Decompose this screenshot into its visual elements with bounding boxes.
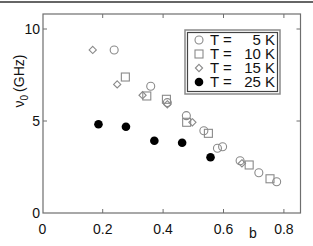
y-axis-label: ν0(GHz) [11, 55, 30, 108]
x-tick-label: 0.4 [153, 221, 173, 237]
y-axis-label-symbol: ν [11, 100, 27, 107]
y-axis-tick-labels: 0510 [24, 21, 40, 221]
diamond-marker [89, 46, 96, 53]
x-tick-label: 0.6 [214, 221, 234, 237]
legend-prefix: T = [210, 73, 232, 90]
svg-text:ν0(GHz): ν0(GHz) [11, 55, 30, 108]
series-t-25-k [94, 120, 215, 162]
circle-filled-legend-icon [195, 78, 204, 87]
circle-marker [147, 82, 155, 90]
y-tick-label: 0 [32, 205, 40, 221]
x-tick-label: 0.8 [274, 221, 294, 237]
square-marker [121, 73, 129, 81]
circle-marker [255, 169, 263, 177]
square-marker [245, 161, 253, 169]
filled-circle-marker [178, 138, 187, 147]
circle-marker [219, 143, 227, 151]
filled-circle-marker [150, 136, 159, 145]
y-axis-label-unit: (GHz) [11, 55, 27, 92]
y-axis-label-subscript: 0 [19, 94, 30, 100]
legend: T =5 KT =10 KT =15 KT =25 K [185, 30, 280, 94]
circle-marker [110, 46, 118, 54]
y-tick-label: 10 [24, 21, 40, 37]
x-tick-label: 0 [38, 221, 46, 237]
diamond-marker [114, 81, 121, 88]
x-tick-label: 0.2 [93, 221, 113, 237]
filled-circle-marker [122, 122, 131, 131]
scatter-chart: 00.20.40.60.8 0510 b ν0(GHz) T =5 KT =10… [0, 0, 313, 246]
circle-marker [213, 144, 221, 152]
y-tick-label: 5 [32, 113, 40, 129]
filled-circle-marker [94, 120, 103, 129]
legend-value: 25 K [244, 73, 275, 90]
diamond-marker [189, 119, 196, 126]
x-axis-label: b [249, 225, 257, 241]
filled-circle-marker [206, 153, 215, 162]
